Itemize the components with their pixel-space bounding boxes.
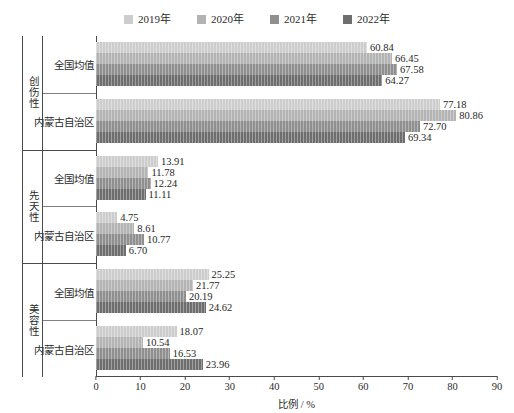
bar-line: 23.96 — [96, 359, 497, 370]
bar-2019年[interactable] — [96, 212, 117, 223]
bar-line: 12.24 — [96, 178, 497, 189]
bar-line: 24.62 — [96, 302, 497, 313]
bar-2021年[interactable] — [96, 178, 151, 189]
bar-row-全国均值: 60.8466.4567.5864.27 — [96, 36, 497, 93]
bar-value-label: 24.62 — [209, 302, 233, 313]
bar-row-全国均值: 13.9111.7812.2411.11 — [96, 149, 497, 206]
x-axis-tick-label: 90 — [492, 381, 503, 393]
x-axis-tick-label: 20 — [180, 381, 191, 393]
bar-line: 77.18 — [96, 99, 497, 110]
legend-label: 2022年 — [357, 14, 390, 25]
legend-item-2021年[interactable]: 2021年 — [270, 14, 317, 25]
bar-line: 67.58 — [96, 64, 497, 75]
x-axis-ticks: 0102030405060708090 — [96, 376, 497, 398]
legend-swatch-icon — [124, 15, 133, 24]
bar-2020年[interactable] — [96, 280, 193, 291]
x-axis-tick-mark — [185, 376, 186, 380]
bar-value-label: 21.77 — [196, 280, 220, 291]
x-axis-tick-mark — [274, 376, 275, 380]
bar-2019年[interactable] — [96, 99, 440, 110]
legend-swatch-icon — [197, 15, 206, 24]
legend-item-2019年[interactable]: 2019年 — [124, 14, 171, 25]
bar-line: 11.78 — [96, 167, 497, 178]
bar-row-内蒙古自治区: 18.0710.5416.5323.96 — [96, 319, 497, 376]
x-axis-tick: 80 — [447, 376, 458, 393]
y-axis-row-内蒙古自治区: 内蒙古自治区 — [43, 93, 97, 150]
x-axis-tick-label: 40 — [269, 381, 280, 393]
y-axis-group-美容性: 美容性 — [23, 263, 43, 377]
bar-chart: 2019年2020年2021年2022年 创伤性先天性美容性 全国均值内蒙古自治… — [0, 0, 514, 413]
x-axis-tick: 70 — [403, 376, 414, 393]
bar-value-label: 72.70 — [423, 121, 447, 132]
bar-line: 21.77 — [96, 280, 497, 291]
bar-value-label: 16.53 — [173, 348, 197, 359]
bar-value-label: 6.70 — [129, 245, 147, 256]
x-axis-tick-label: 70 — [403, 381, 414, 393]
y-axis-group-label: 先天性 — [26, 190, 41, 223]
bar-line: 10.54 — [96, 337, 497, 348]
bar-value-label: 23.96 — [206, 359, 230, 370]
bar-2020年[interactable] — [96, 53, 392, 64]
bar-2022年[interactable] — [96, 75, 382, 86]
bar-2022年[interactable] — [96, 245, 126, 256]
bar-2021年[interactable] — [96, 121, 420, 132]
legend-label: 2021年 — [284, 14, 317, 25]
x-axis-tick-label: 10 — [135, 381, 146, 393]
bar-value-label: 11.78 — [151, 167, 174, 178]
bar-value-label: 69.34 — [408, 132, 432, 143]
x-axis-tick: 0 — [93, 376, 98, 393]
bar-group-创伤性: 60.8466.4567.5864.2777.1880.8672.7069.34 — [96, 36, 497, 149]
x-axis-tick: 30 — [224, 376, 235, 393]
bar-row-全国均值: 25.2521.7720.1924.62 — [96, 263, 497, 320]
bar-2021年[interactable] — [96, 291, 186, 302]
bar-value-label: 66.45 — [395, 53, 419, 64]
legend-item-2020年[interactable]: 2020年 — [197, 14, 244, 25]
y-axis-group-label: 创伤性 — [26, 76, 41, 109]
y-axis-group-创伤性: 创伤性 — [23, 36, 43, 150]
x-axis-tick-label: 50 — [314, 381, 325, 393]
bar-2021年[interactable] — [96, 64, 397, 75]
bar-2019年[interactable] — [96, 326, 177, 337]
x-axis-tick-mark — [96, 376, 97, 380]
legend-label: 2019年 — [138, 14, 171, 25]
bar-2020年[interactable] — [96, 110, 456, 121]
bar-line: 4.75 — [96, 212, 497, 223]
bar-2020年[interactable] — [96, 337, 143, 348]
bar-cluster: 4.758.6110.776.70 — [96, 212, 497, 256]
y-axis-row-label: 内蒙古自治区 — [34, 114, 94, 129]
bar-2019年[interactable] — [96, 156, 158, 167]
bar-cluster: 25.2521.7720.1924.62 — [96, 269, 497, 313]
bar-2022年[interactable] — [96, 189, 146, 200]
bar-2021年[interactable] — [96, 234, 144, 245]
bar-2019年[interactable] — [96, 42, 367, 53]
bar-value-label: 10.77 — [147, 234, 171, 245]
bar-2020年[interactable] — [96, 223, 134, 234]
x-axis-tick: 10 — [135, 376, 146, 393]
bar-value-label: 18.07 — [180, 326, 204, 337]
bar-2022年[interactable] — [96, 359, 203, 370]
y-axis-row-全国均值: 全国均值 — [43, 150, 97, 207]
plot-area: 60.8466.4567.5864.2777.1880.8672.7069.34… — [96, 36, 497, 376]
bar-line: 10.77 — [96, 234, 497, 245]
bar-value-label: 80.86 — [459, 110, 483, 121]
bar-line: 6.70 — [96, 245, 497, 256]
x-axis-tick-mark — [407, 376, 408, 380]
bar-line: 16.53 — [96, 348, 497, 359]
x-axis-title: 比例 / % — [96, 396, 497, 411]
bar-value-label: 4.75 — [120, 212, 138, 223]
bar-2022年[interactable] — [96, 132, 405, 143]
bar-line: 64.27 — [96, 75, 497, 86]
x-axis-tick: 50 — [314, 376, 325, 393]
x-axis-tick-mark — [318, 376, 319, 380]
bar-2019年[interactable] — [96, 269, 209, 280]
legend-item-2022年[interactable]: 2022年 — [343, 14, 390, 25]
x-axis-tick-mark — [497, 376, 498, 380]
y-axis-row-内蒙古自治区: 内蒙古自治区 — [43, 320, 97, 377]
bar-2020年[interactable] — [96, 167, 148, 178]
y-axis-row-label: 全国均值 — [54, 285, 94, 300]
bar-2022年[interactable] — [96, 302, 206, 313]
x-axis-tick-label: 0 — [93, 381, 98, 393]
bar-value-label: 77.18 — [443, 99, 467, 110]
bar-2021年[interactable] — [96, 348, 170, 359]
bar-value-label: 8.61 — [137, 223, 155, 234]
